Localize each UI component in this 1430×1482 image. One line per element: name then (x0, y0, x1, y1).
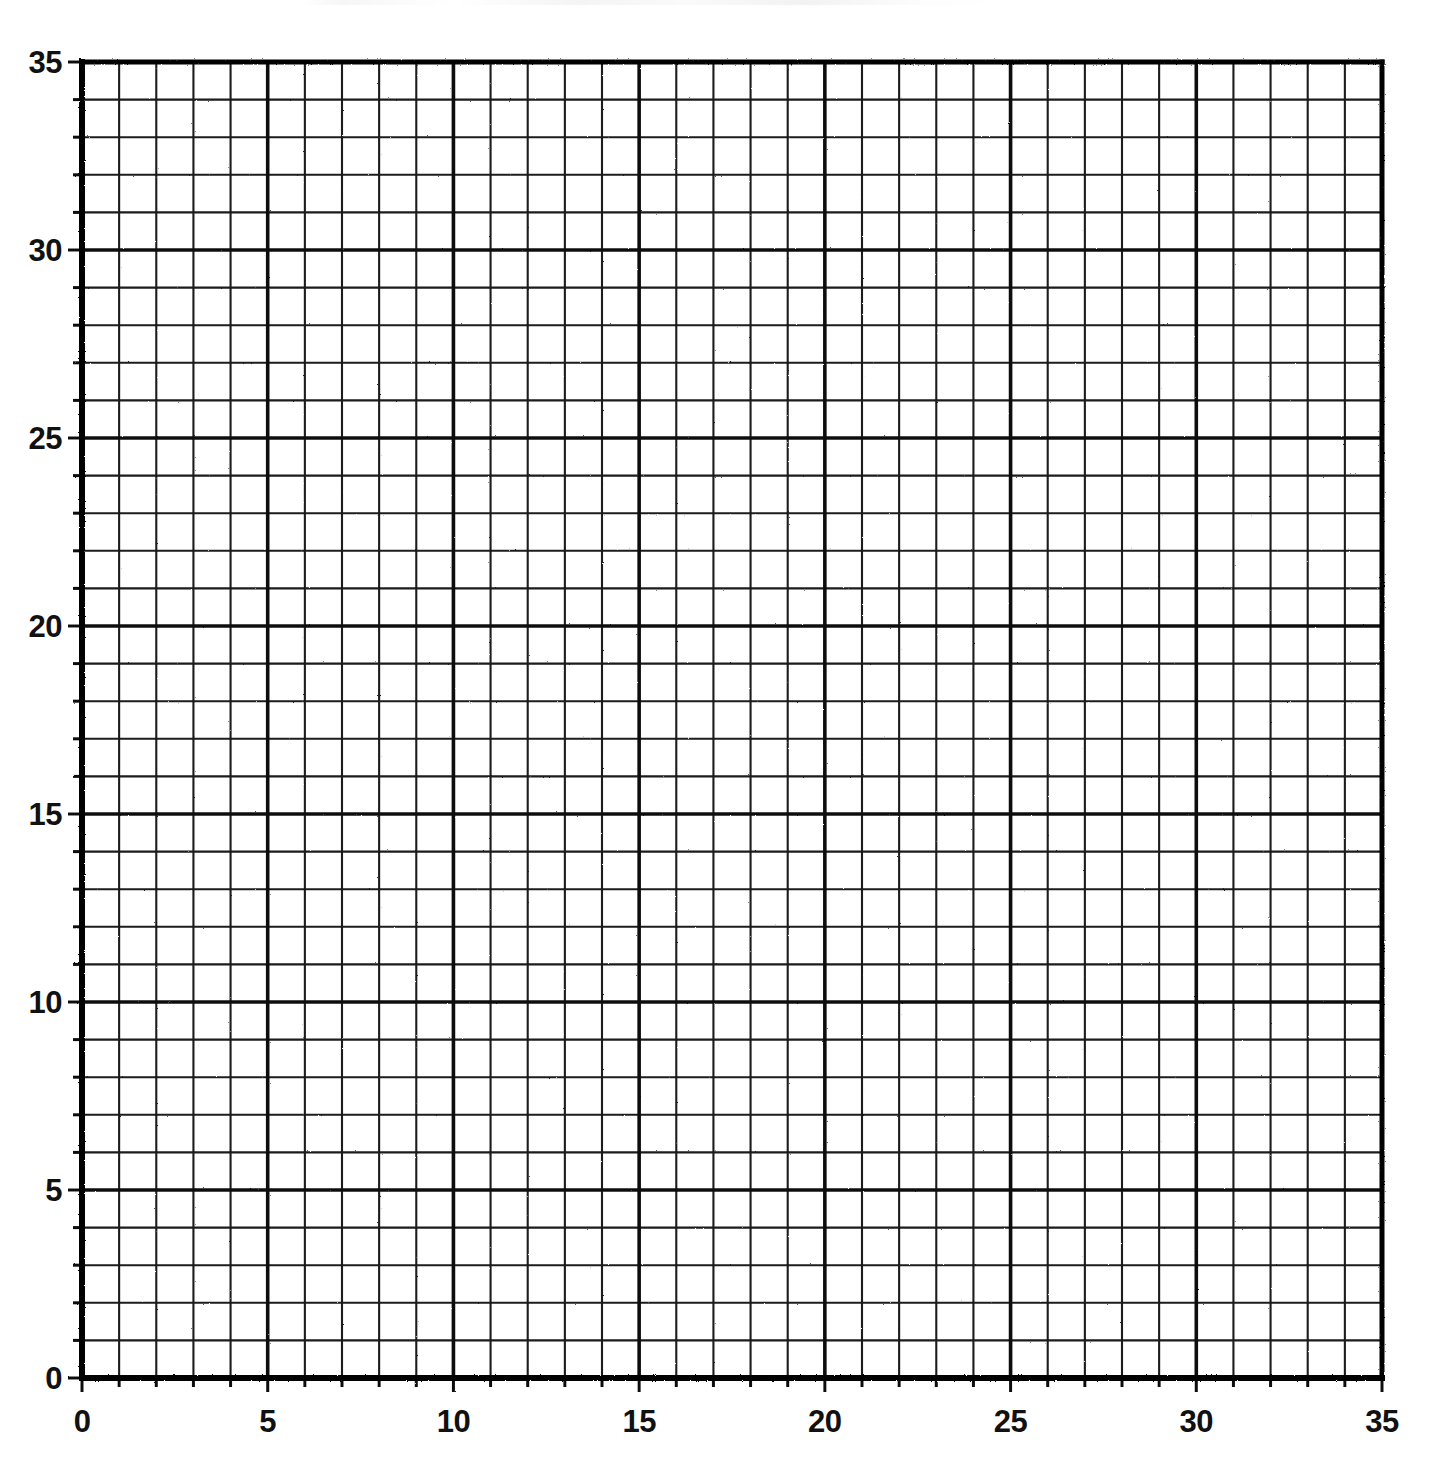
y-tick-label-15: 15 (29, 799, 62, 830)
x-tick-label-5: 5 (259, 1406, 276, 1437)
x-tick-label-20: 20 (808, 1406, 841, 1437)
grid-lines (82, 62, 1382, 1378)
minor-horizontal-gridlines (82, 100, 1382, 1341)
y-tick-label-10: 10 (29, 987, 62, 1018)
y-tick-label-5: 5 (45, 1175, 62, 1206)
minor-vertical-gridlines (119, 62, 1345, 1378)
y-tick-label-20: 20 (29, 611, 62, 642)
y-tick-label-35: 35 (29, 47, 62, 78)
x-tick-label-30: 30 (1180, 1406, 1213, 1437)
x-tick-label-15: 15 (622, 1406, 655, 1437)
grid-plot (0, 0, 1430, 1482)
x-tick-label-25: 25 (994, 1406, 1027, 1437)
major-horizontal-gridlines (82, 62, 1382, 1378)
y-tick-label-0: 0 (45, 1363, 62, 1394)
y-tick-label-25: 25 (29, 423, 62, 454)
x-tick-label-35: 35 (1365, 1406, 1398, 1437)
x-tick-label-10: 10 (437, 1406, 470, 1437)
axis-ticks (68, 62, 1382, 1392)
x-tick-label-0: 0 (74, 1406, 91, 1437)
y-tick-label-30: 30 (29, 235, 62, 266)
axis-spines (82, 62, 1382, 1378)
major-vertical-gridlines (82, 62, 1382, 1378)
figure-canvas: 35302520151050 05101520253035 (0, 0, 1430, 1482)
